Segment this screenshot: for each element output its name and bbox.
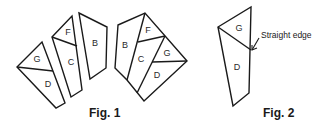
label-g: G xyxy=(33,54,40,64)
label-d: D xyxy=(154,70,161,80)
fig1-assembled: B F C G D xyxy=(115,13,187,101)
diagram-svg: G D F C B B F C G D xyxy=(0,0,331,126)
fig2-piece-gd: G D xyxy=(218,7,251,106)
label-g: G xyxy=(235,23,242,33)
assembled-divider-gd xyxy=(152,61,187,62)
assembled-outline xyxy=(115,13,187,101)
label-b: B xyxy=(92,38,98,48)
label-d: D xyxy=(45,79,52,89)
fig2-outline xyxy=(218,7,251,106)
label-g: G xyxy=(163,48,170,58)
label-c: C xyxy=(138,54,145,64)
straight-edge-callout: Straight edge xyxy=(252,30,312,50)
diagram-canvas: G D F C B B F C G D xyxy=(0,0,331,126)
label-b: B xyxy=(122,40,128,50)
label-c: C xyxy=(68,57,75,67)
fig2-caption: Fig. 2 xyxy=(263,106,295,120)
label-f: F xyxy=(65,27,71,37)
fig1-caption: Fig. 1 xyxy=(89,106,121,120)
fig1-piece-b: B xyxy=(79,13,107,79)
straight-edge-label: Straight edge xyxy=(261,30,312,40)
label-f: F xyxy=(145,25,151,35)
label-d: D xyxy=(234,62,241,72)
